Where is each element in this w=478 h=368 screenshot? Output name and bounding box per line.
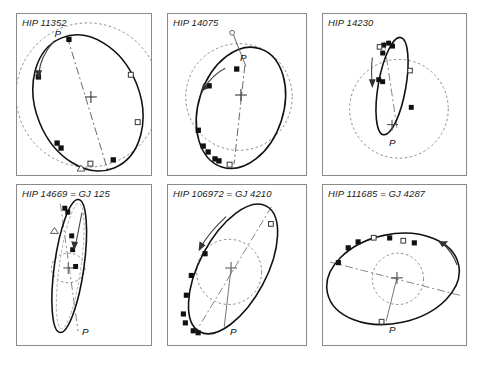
center-cross	[225, 262, 237, 274]
panel-title: HIP 14230	[328, 17, 373, 28]
marker-filled-square	[191, 328, 196, 333]
periastron-label: P	[54, 28, 61, 39]
reference-circle	[350, 59, 449, 158]
center-cross	[391, 272, 403, 284]
orbit-plot: P	[17, 185, 151, 345]
panel-hip-14669[interactable]: HIP 14669 = GJ 125	[16, 184, 152, 346]
marker-filled-square	[196, 330, 201, 335]
marker-filled-square	[412, 240, 417, 245]
panel-title: HIP 106972 = GJ 4210	[173, 188, 272, 199]
marker-filled-square	[184, 293, 189, 298]
reference-circle	[372, 253, 423, 304]
orbit-plot: P	[168, 14, 306, 175]
panel-hip-111685[interactable]: HIP 111685 = GJ 4287	[322, 184, 467, 346]
panel-hip-14230[interactable]: HIP 14230	[322, 13, 467, 176]
apsidal-line	[67, 37, 107, 170]
orbit-ellipse	[45, 197, 93, 334]
marker-filled-square	[216, 158, 221, 163]
marker-filled-square	[387, 235, 392, 240]
panel-hip-11352[interactable]: HIP 11352	[16, 13, 152, 176]
panel-title: HIP 14669 = GJ 125	[22, 188, 110, 199]
marker-open-square	[379, 319, 384, 324]
direction-arrow	[369, 57, 376, 88]
apsidal-line	[196, 207, 272, 332]
marker-filled-square	[196, 128, 201, 133]
marker-open-square	[408, 68, 413, 73]
marker-filled-square	[73, 264, 78, 269]
marker-filled-square	[66, 37, 71, 42]
marker-filled-square	[65, 210, 70, 215]
orbit-plot: P	[323, 185, 466, 345]
marker-filled-square	[409, 105, 414, 110]
marker-filled-square	[69, 233, 74, 238]
orbit-ellipse	[17, 18, 151, 175]
periastron-label: P	[389, 324, 396, 335]
marker-open-square	[371, 235, 376, 240]
marker-open-square	[128, 72, 133, 77]
figure-caption	[0, 352, 478, 368]
marker-filled-square	[54, 140, 59, 145]
marker-filled-square	[189, 273, 194, 278]
marker-filled-square	[183, 320, 188, 325]
marker-filled-square	[201, 143, 206, 148]
direction-arrow	[199, 217, 227, 252]
periastron-label: P	[82, 326, 89, 337]
panel-hip-106972[interactable]: HIP 106972 = GJ 4210	[167, 184, 307, 346]
marker-filled-square	[380, 51, 385, 56]
panel-title: HIP 11352	[22, 17, 67, 28]
marker-filled-square	[234, 66, 239, 71]
marker-open-triangle	[51, 227, 59, 233]
center-cross	[235, 89, 247, 101]
marker-open-square	[269, 222, 274, 227]
panel-grid: HIP 11352	[16, 13, 463, 346]
periastron-label: P	[230, 326, 237, 337]
marker-filled-square	[356, 239, 361, 244]
marker-filled-square	[111, 157, 116, 162]
observation-markers	[196, 66, 240, 167]
panel-title: HIP 14075	[173, 17, 218, 28]
reference-circle	[17, 23, 151, 167]
marker-open-square	[377, 45, 382, 50]
marker-open-square	[135, 120, 140, 125]
apsidal-line	[234, 65, 245, 164]
marker-open-square	[401, 238, 406, 243]
panel-title: HIP 111685 = GJ 4287	[328, 188, 425, 199]
marker-filled-square	[336, 260, 341, 265]
apsidal-line	[330, 262, 461, 296]
marker-filled-square	[181, 311, 186, 316]
direction-arrow	[35, 41, 54, 80]
observation-markers	[181, 222, 273, 336]
marker-filled-square	[203, 251, 208, 256]
orbit-figure: HIP 11352	[0, 0, 478, 368]
orbit-plot: P	[17, 14, 151, 175]
direction-arrow	[71, 213, 82, 251]
observation-markers	[336, 235, 417, 324]
periastron-label: P	[240, 52, 247, 63]
marker-open-square	[227, 162, 232, 167]
center-cross	[63, 263, 74, 274]
orbit-plot: P	[323, 14, 466, 175]
marker-filled-square	[205, 149, 210, 154]
direction-arrow	[201, 68, 226, 92]
marker-open-square	[88, 161, 93, 166]
orbit-plot: P	[168, 185, 306, 345]
marker-filled-square	[380, 79, 385, 84]
marker-filled-square	[58, 145, 63, 150]
periastron-ray	[224, 268, 231, 327]
periastron-label: P	[389, 137, 396, 148]
periastron-endpoint	[230, 30, 235, 35]
marker-filled-square	[390, 44, 395, 49]
periastron-ray	[386, 278, 397, 321]
marker-filled-square	[346, 245, 351, 250]
panel-hip-14075[interactable]: HIP 14075	[167, 13, 307, 176]
